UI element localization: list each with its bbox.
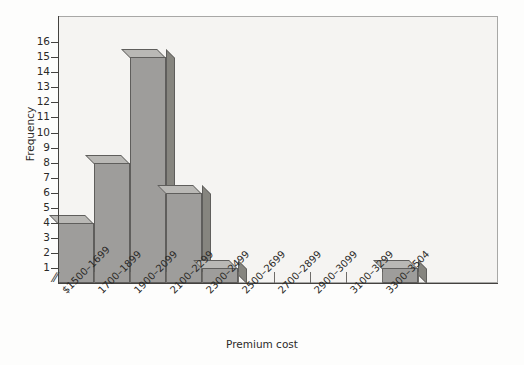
y-axis-tick — [51, 268, 59, 269]
x-axis-tick — [166, 272, 167, 283]
y-axis-tick-label: 6 — [8, 187, 50, 198]
y-axis-tick — [51, 193, 59, 194]
y-axis-tick — [51, 208, 59, 209]
y-axis-tick — [51, 238, 59, 239]
x-axis-tick — [274, 272, 275, 283]
y-axis-tick-label: 14 — [8, 66, 50, 77]
y-axis-tick — [51, 87, 59, 88]
y-axis-tick-label: 1 — [8, 262, 50, 273]
y-axis-tick-label: 4 — [8, 217, 50, 228]
y-axis-tick — [51, 133, 59, 134]
y-axis-tick-label: 5 — [8, 202, 50, 213]
y-axis-tick — [51, 163, 59, 164]
y-axis-tick — [51, 57, 59, 58]
y-axis-tick — [51, 117, 59, 118]
y-axis-tick — [51, 72, 59, 73]
y-axis-tick-label: 16 — [8, 36, 50, 47]
x-axis-tick — [94, 272, 95, 283]
y-axis-tick — [51, 178, 59, 179]
x-axis-tick — [382, 272, 383, 283]
x-axis-tick — [130, 272, 131, 283]
x-axis-tick — [346, 272, 347, 283]
y-axis-tick — [51, 102, 59, 103]
y-axis-title: Frequency — [24, 89, 36, 179]
histogram-figure: 16151413121110987654321 $1500–16991700–1… — [0, 0, 524, 365]
y-axis-tick-label: 3 — [8, 232, 50, 243]
x-axis-tick — [418, 272, 419, 283]
x-axis-line — [58, 283, 498, 284]
y-axis-tick — [51, 253, 59, 254]
y-axis-tick — [51, 42, 59, 43]
x-axis-tick — [202, 272, 203, 283]
y-axis-tick — [51, 223, 59, 224]
y-axis-tick — [51, 148, 59, 149]
y-axis-tick-label: 15 — [8, 51, 50, 62]
x-axis-title: Premium cost — [0, 338, 524, 350]
y-axis-line — [58, 16, 59, 283]
x-axis-tick — [310, 272, 311, 283]
x-axis-tick — [238, 272, 239, 283]
y-axis-tick-label: 2 — [8, 247, 50, 258]
